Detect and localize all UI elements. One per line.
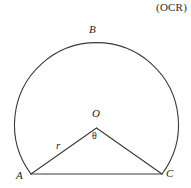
point-label-O: O xyxy=(92,108,100,119)
point-label-C: C xyxy=(166,168,173,179)
radius-label-r: r xyxy=(56,140,60,151)
radius-line-OC xyxy=(97,128,163,174)
radius-line-OA xyxy=(31,128,97,174)
angle-label-theta: θ xyxy=(92,131,97,141)
point-label-A: A xyxy=(16,170,23,181)
geometry-figure: (OCR) B O θ r A C xyxy=(0,0,191,188)
point-label-B: B xyxy=(89,24,96,35)
